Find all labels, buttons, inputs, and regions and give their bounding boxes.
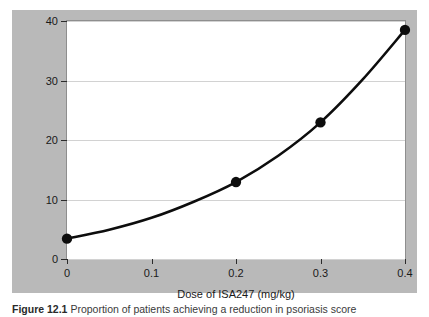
y-tick-label-0: 0: [52, 253, 58, 265]
x-tick-mark-0: [67, 259, 68, 264]
x-tick-mark-0.4: [405, 259, 406, 264]
data-point-group: [62, 25, 410, 244]
y-tick-label-10: 10: [46, 194, 58, 206]
x-tick-mark-0.2: [236, 259, 237, 264]
x-tick-mark-0.1: [152, 259, 153, 264]
fitted-curve: [67, 30, 405, 239]
x-tick-label-0.2: 0.2: [228, 267, 243, 279]
y-tick-label-30: 30: [46, 75, 58, 87]
x-tick-label-0.3: 0.3: [313, 267, 328, 279]
y-tick-label-40: 40: [46, 15, 58, 27]
chart-plot-svg: [67, 21, 405, 260]
figure-container: Patients with 75% reduction in psoriasis…: [12, 10, 417, 293]
data-point: [400, 25, 410, 35]
plot-inner: 40 30 20 10 0 0 0.1 0.2 0.3 0.4: [67, 21, 405, 259]
data-point: [315, 117, 325, 127]
x-tick-label-0.1: 0.1: [144, 267, 159, 279]
figure-caption-label: Figure 12.1: [12, 303, 67, 315]
x-tick-label-0: 0: [64, 267, 70, 279]
plot-area: 40 30 20 10 0 0 0.1 0.2 0.3 0.4: [66, 20, 406, 260]
figure-caption-text: Proportion of patients achieving a reduc…: [70, 303, 356, 315]
x-tick-mark-0.3: [321, 259, 322, 264]
y-tick-label-20: 20: [46, 134, 58, 146]
x-tick-label-0.4: 0.4: [397, 267, 412, 279]
data-point: [62, 234, 72, 244]
x-axis-title: Dose of ISA247 (mg/kg): [66, 288, 406, 300]
data-point: [231, 177, 241, 187]
figure-caption: Figure 12.1 Proportion of patients achie…: [12, 303, 417, 315]
